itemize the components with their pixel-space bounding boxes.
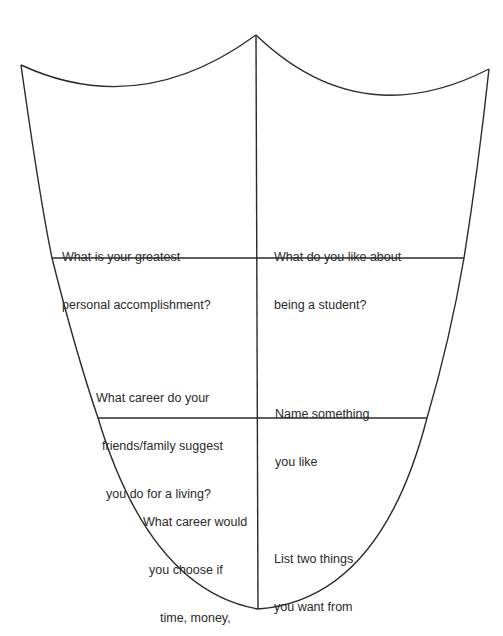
question-greatest-accomplishment: What is your greatest personal accomplis…: [62, 217, 211, 329]
text-line: you want from: [274, 599, 353, 615]
text-line: What is your greatest: [62, 249, 211, 265]
text-line: What do you like about: [274, 249, 401, 265]
question-two-things-from-career: List two things you want from your caree…: [274, 519, 353, 636]
text-line: you like: [275, 454, 370, 470]
text-line: friends/family suggest: [96, 438, 223, 454]
text-line: you choose if: [143, 562, 253, 578]
text-line: Name something: [275, 406, 370, 422]
text-line: personal accomplishment?: [62, 297, 211, 313]
text-line: What career would: [143, 514, 253, 530]
center-divider: [256, 35, 258, 609]
text-line: What career do your: [96, 390, 223, 406]
question-dream-career: What career would you choose if time, mo…: [143, 482, 253, 636]
text-line: being a student?: [274, 297, 401, 313]
text-line: List two things: [274, 551, 353, 567]
text-line: time, money,: [143, 610, 253, 626]
question-name-something-you-like: Name something you like: [275, 374, 370, 486]
top-left-scallop: [21, 35, 256, 87]
question-like-being-student: What do you like about being a student?: [274, 217, 401, 329]
top-right-scallop: [256, 35, 489, 95]
